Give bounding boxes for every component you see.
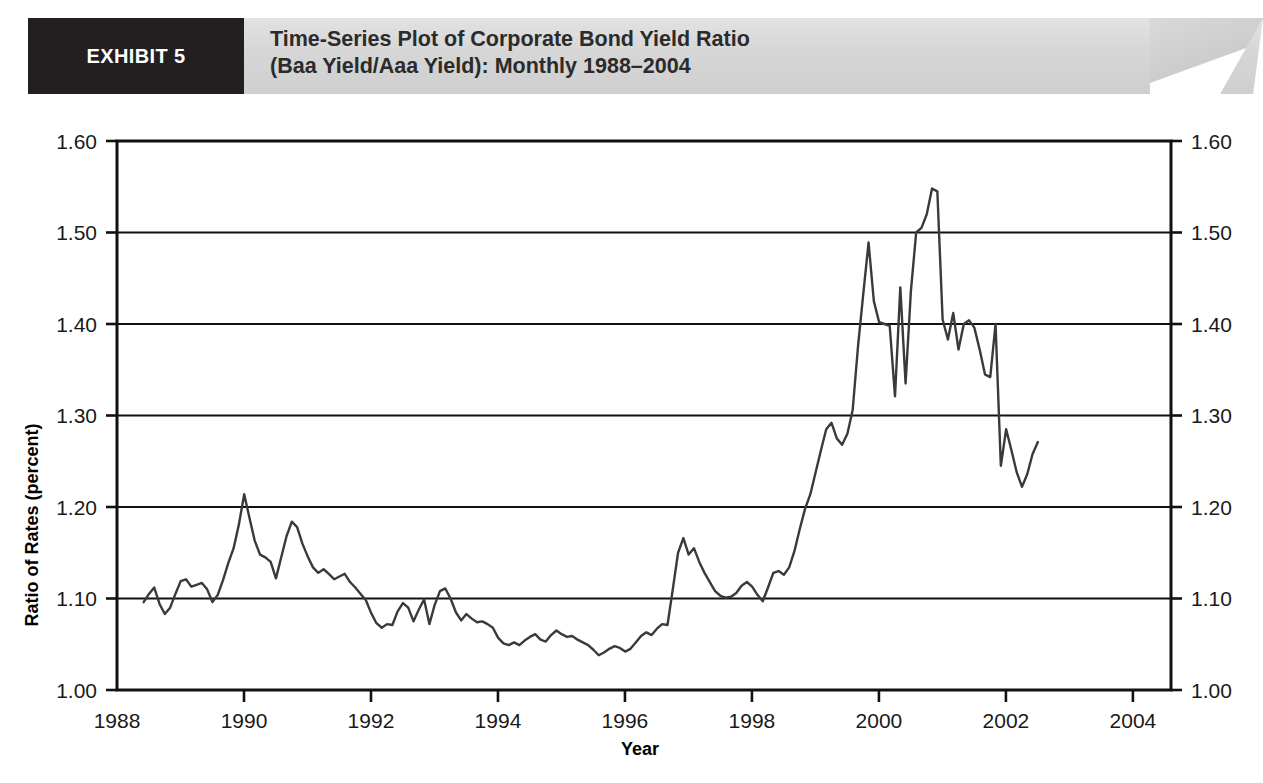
y-tick-label-left-6: 1.60 xyxy=(56,130,97,153)
series-line-0 xyxy=(144,189,1038,656)
exhibit-header: EXHIBIT 5 Time-Series Plot of Corporate … xyxy=(0,0,1263,110)
x-tick-label-2002: 2002 xyxy=(983,709,1030,732)
x-tick-label-1998: 1998 xyxy=(729,709,776,732)
y-axis-labels-right: 1.001.101.201.301.401.501.60 xyxy=(1191,130,1232,702)
y-tick-label-left-1: 1.10 xyxy=(56,587,97,610)
y-tick-label-left-5: 1.50 xyxy=(56,221,97,244)
y-tick-label-left-4: 1.40 xyxy=(56,313,97,336)
y-tick-label-left-3: 1.30 xyxy=(56,404,97,427)
y-tick-label-right-0: 1.00 xyxy=(1191,679,1232,702)
x-tick-label-1996: 1996 xyxy=(602,709,649,732)
exhibit-title: Time-Series Plot of Corporate Bond Yield… xyxy=(270,26,1110,80)
exhibit-number-badge: EXHIBIT 5 xyxy=(28,18,244,94)
y-tick-label-right-1: 1.10 xyxy=(1191,587,1232,610)
x-tick-label-2004: 2004 xyxy=(1110,709,1157,732)
x-axis-title: Year xyxy=(621,739,659,759)
axis-ticks-group xyxy=(106,141,1182,702)
x-tick-label-1990: 1990 xyxy=(221,709,268,732)
y-tick-label-right-3: 1.30 xyxy=(1191,404,1232,427)
exhibit-number-label: EXHIBIT 5 xyxy=(86,45,185,68)
y-tick-label-left-0: 1.00 xyxy=(56,679,97,702)
data-series-group xyxy=(144,189,1038,656)
x-tick-label-2000: 2000 xyxy=(856,709,903,732)
y-tick-label-right-4: 1.40 xyxy=(1191,313,1232,336)
y-axis-title: Ratio of Rates (percent) xyxy=(22,423,42,626)
x-axis-labels: 198819901992199419961998200020022004 xyxy=(94,709,1157,732)
exhibit-title-line-1: Time-Series Plot of Corporate Bond Yield… xyxy=(270,26,1110,53)
time-series-line-chart: 1.001.101.201.301.401.501.60 1.001.101.2… xyxy=(0,110,1263,783)
x-tick-label-1994: 1994 xyxy=(475,709,522,732)
y-tick-label-right-5: 1.50 xyxy=(1191,221,1232,244)
y-tick-label-right-2: 1.20 xyxy=(1191,496,1232,519)
gridlines-group xyxy=(117,233,1171,599)
y-axis-labels-left: 1.001.101.201.301.401.501.60 xyxy=(56,130,97,702)
x-tick-label-1988: 1988 xyxy=(94,709,141,732)
y-tick-label-left-2: 1.20 xyxy=(56,496,97,519)
x-tick-label-1992: 1992 xyxy=(348,709,395,732)
chart-figure: 1.001.101.201.301.401.501.60 1.001.101.2… xyxy=(0,110,1263,783)
y-tick-label-right-6: 1.60 xyxy=(1191,130,1232,153)
exhibit-title-line-2: (Baa Yield/Aaa Yield): Monthly 1988–2004 xyxy=(270,53,1110,80)
